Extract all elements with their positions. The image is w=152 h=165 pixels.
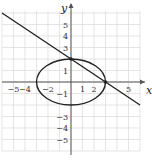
intersection-point [69, 57, 73, 61]
x-tick-label: −2 [42, 85, 54, 94]
intersection-point [104, 80, 108, 84]
graph: −5−4−21255431−1−3−4−5xy [0, 0, 152, 165]
y-tick-label: −1 [56, 90, 68, 99]
y-tick-label: −4 [56, 124, 68, 133]
x-tick-label: 5 [126, 85, 131, 94]
y-tick-label: 4 [63, 32, 68, 41]
y-tick-label: 1 [63, 67, 68, 76]
y-tick-label: 5 [63, 21, 68, 30]
x-tick-label: 1 [80, 85, 85, 94]
x-tick-label: −4 [19, 85, 31, 94]
y-tick-label: 3 [63, 44, 68, 53]
x-axis-label: x [146, 84, 152, 97]
y-tick-label: −5 [56, 136, 68, 145]
y-axis-arrow-icon [69, 3, 74, 8]
x-tick-label: −5 [8, 85, 20, 94]
x-axis-arrow-icon [140, 80, 145, 85]
x-tick-label: 2 [91, 85, 96, 94]
y-axis-label: y [60, 2, 68, 15]
y-tick-label: −3 [56, 113, 68, 122]
